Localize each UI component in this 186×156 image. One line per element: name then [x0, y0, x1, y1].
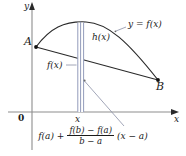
- x-axis-label: x: [174, 115, 179, 124]
- point-B-label: B: [156, 81, 164, 92]
- function-curve: [36, 22, 158, 80]
- formula-lead-term: f(a) +: [38, 131, 64, 141]
- point-A-label: A: [24, 36, 32, 47]
- y-axis-arrowhead: [29, 2, 35, 10]
- formula-leader-dot: [84, 80, 86, 82]
- formula-numerator: f(b) − f(a): [67, 126, 114, 135]
- h-of-x-label: h(x): [92, 33, 110, 42]
- formula-trailing-term: (x − a): [117, 131, 148, 141]
- secant-line-formula: f(a) + f(b) − f(a) b − a (x − a): [0, 126, 186, 146]
- formula-fraction: f(b) − f(a) b − a: [67, 126, 114, 146]
- formula-denominator: b − a: [77, 136, 104, 145]
- curve-leader-line: [116, 27, 126, 31]
- point-A-marker: [34, 45, 38, 49]
- f-of-x-label: f(x): [47, 61, 62, 70]
- formula-leader: [84, 80, 124, 126]
- x-tick-label: x: [75, 115, 80, 124]
- formula-leader-line: [85, 81, 125, 126]
- curve-equation-label: y = f(x): [128, 20, 162, 29]
- formula-row: f(a) + f(b) − f(a) b − a (x − a): [38, 126, 147, 146]
- curve-label-leader: [115, 27, 127, 32]
- origin-label: 0: [18, 114, 24, 123]
- mean-value-theorem-figure: A B y x 0 x h(x) f(x) y = f(x) f(a) + f(…: [0, 0, 186, 156]
- y-axis-label: y: [24, 2, 29, 11]
- vertical-strip: [78, 22, 85, 112]
- curve-leader-dot: [115, 30, 117, 32]
